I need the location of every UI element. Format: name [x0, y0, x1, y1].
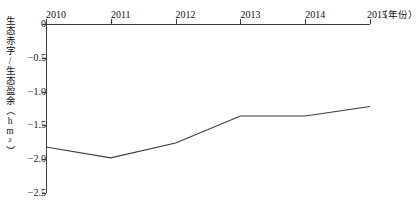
x-tick-label: 2012: [176, 10, 196, 20]
series-polyline: [46, 106, 370, 157]
x-tick-label: 2011: [111, 10, 131, 20]
x-tick-label: 2014: [305, 10, 325, 20]
chart-figure: 生态赤字/生态盈余（hm²） 0 −0.5 −1.0 −1.5 −2.0 −2.…: [0, 0, 420, 207]
series-line-ecological-deficit: [46, 24, 370, 193]
x-tick-label: 2013: [240, 10, 260, 20]
y-tick-mark: [42, 193, 46, 194]
x-axis-title: （年份）: [378, 10, 418, 20]
y-axis-tick-labels: 0 −0.5 −1.0 −1.5 −2.0 −2.5: [14, 0, 46, 207]
y-axis-title-text: 生态赤字/生态盈余（hm²）: [1, 16, 15, 156]
x-tick-label: 2010: [46, 10, 66, 20]
plot-area: 2010 2011 2012 2013 2014 2015 （年份）: [46, 24, 370, 193]
